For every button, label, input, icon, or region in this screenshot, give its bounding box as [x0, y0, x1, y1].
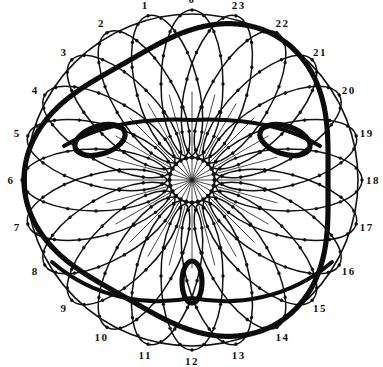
radial-spoke: [192, 180, 254, 242]
radial-spoke: [130, 180, 192, 242]
petal-marker-dot: [135, 93, 139, 97]
petal-marker-dot: [26, 134, 30, 138]
petal-marker-dot: [174, 131, 179, 136]
petal-marker-dot: [212, 222, 215, 225]
petal-marker-dot: [354, 134, 358, 138]
petal-marker-dot: [159, 82, 162, 85]
petal-marker-dot: [221, 82, 224, 85]
petal-marker-dot: [234, 156, 237, 159]
petal-marker-dot: [72, 271, 77, 276]
petal-marker-dot: [180, 130, 184, 134]
petal-marker-dot: [279, 298, 284, 303]
petal-marker-dot: [307, 85, 312, 90]
petal-marker-dot: [249, 40, 253, 44]
petal-marker-dot: [307, 271, 312, 276]
petal-marker-dot: [162, 246, 165, 249]
tick-label-8: 8: [32, 265, 39, 276]
petal-marker-dot: [250, 291, 254, 295]
petal-marker-dot: [303, 118, 307, 122]
upper-right-loop: [256, 119, 314, 162]
tick-label-9: 9: [61, 303, 68, 314]
petal-marker-dot: [168, 30, 171, 33]
petal-marker-dot: [135, 263, 139, 267]
petal-marker-dot: [142, 168, 146, 172]
petal-marker-dot: [205, 131, 210, 136]
petal-oval: [116, 6, 218, 169]
petal-marker-dot: [187, 226, 192, 231]
radial-spoke: [130, 118, 192, 180]
petal-marker-dot: [146, 342, 150, 346]
petal-marker-dot: [42, 156, 45, 159]
petal-marker-dot: [303, 238, 307, 242]
tick-label-13: 13: [232, 349, 246, 360]
petal-marker-dot: [94, 147, 97, 150]
petal-marker-dot: [212, 327, 215, 330]
petal-marker-dot: [310, 267, 315, 272]
petal-marker-dot: [275, 233, 279, 237]
petal-marker-dot: [234, 200, 237, 203]
petal-marker-dot: [89, 173, 93, 177]
petal-marker-dot: [286, 147, 289, 150]
tick-label-2: 2: [98, 18, 105, 29]
petal-marker-dot: [185, 279, 189, 283]
petal-marker-dot: [89, 183, 93, 187]
petal-marker-dot: [315, 207, 318, 210]
petal-marker-dot: [66, 207, 69, 210]
petal-marker-dot: [103, 84, 108, 89]
petal-marker-dot: [100, 57, 105, 62]
petal-marker-dot: [159, 274, 162, 277]
petal-marker-dot: [142, 188, 146, 192]
petal-marker-dot: [130, 291, 134, 295]
upper-left-loop: [71, 119, 129, 162]
petal-oval: [18, 154, 181, 256]
tick-label-20: 20: [342, 84, 356, 95]
petal-marker-dot: [238, 168, 242, 172]
tick-label-23: 23: [232, 0, 246, 11]
petal-marker-dot: [94, 209, 97, 212]
petal-oval: [203, 154, 366, 256]
tick-label-7: 7: [14, 221, 21, 232]
petal-marker-dot: [339, 156, 342, 159]
petal-marker-dot: [339, 200, 342, 203]
petal-marker-dot: [218, 190, 221, 193]
petal-marker-dot: [195, 279, 199, 283]
petal-marker-dot: [279, 57, 284, 62]
petal-marker-dot: [141, 181, 146, 186]
petal-marker-dot: [105, 233, 109, 237]
petal-marker-dot: [52, 237, 56, 241]
petal-marker-dot: [238, 175, 243, 180]
petal-marker-dot: [245, 263, 249, 267]
tick-label-12: 12: [185, 356, 199, 367]
petal-marker-dot: [96, 265, 101, 270]
petal-marker-dot: [310, 88, 315, 93]
petal-marker-dot: [245, 93, 249, 97]
petal-marker-dot: [168, 135, 171, 138]
petal-marker-dot: [205, 224, 210, 229]
petal-marker-dot: [258, 207, 261, 210]
petal-marker-dot: [180, 226, 184, 230]
petal-marker-dot: [286, 209, 289, 212]
petal-marker-dot: [162, 303, 165, 306]
petal-marker-dot: [143, 162, 148, 167]
petal-marker-dot: [66, 150, 69, 153]
tick-label-0: 0: [189, 0, 196, 5]
petal-marker-dot: [146, 14, 150, 18]
petal-marker-dot: [190, 8, 193, 11]
tick-label-10: 10: [95, 331, 109, 342]
petal-marker-dot: [234, 342, 238, 346]
petal-marker-dot: [212, 135, 215, 138]
petal-marker-dot: [234, 14, 238, 18]
petal-marker-dot: [221, 274, 224, 277]
petal-marker-dot: [26, 222, 30, 226]
petal-marker-dot: [103, 271, 108, 276]
petal-marker-dot: [130, 40, 134, 44]
petal-marker-dot: [236, 193, 241, 198]
tick-label-18: 18: [366, 175, 380, 186]
petal-marker-dot: [277, 84, 282, 89]
petal-marker-dot: [193, 226, 198, 231]
petal-marker-dot: [283, 91, 288, 96]
petal-marker-dot: [178, 206, 181, 209]
tick-label-16: 16: [342, 265, 356, 276]
tick-label-15: 15: [313, 303, 327, 314]
